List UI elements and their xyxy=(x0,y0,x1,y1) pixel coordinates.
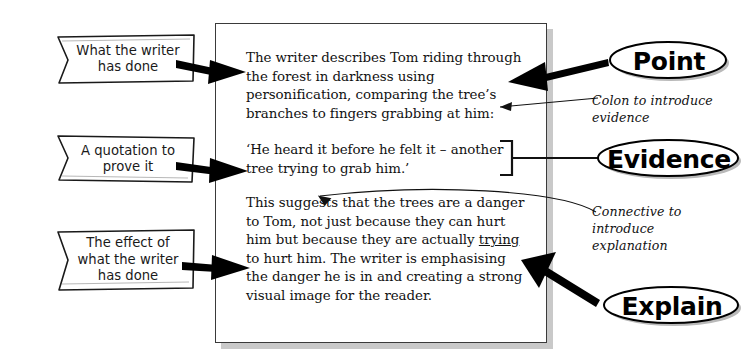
stage-label-explain: Explain xyxy=(602,285,742,327)
model-answer-box: The writer describes Tom riding through … xyxy=(215,23,547,343)
stage-label-text: Evidence xyxy=(607,145,731,174)
paragraph-explain: This suggests that the trees are a dange… xyxy=(246,194,528,305)
annotation-connective-note: Connective to introduce explanation xyxy=(592,203,732,254)
stage-label-text: Explain xyxy=(622,292,723,321)
callout-text: What the writer has done xyxy=(64,43,187,76)
callout-line-1: The effect of xyxy=(86,235,169,250)
callout-text: The effect of what the writer has done xyxy=(66,235,187,285)
callout-line-2: what the writer xyxy=(78,252,179,267)
callout-text: A quotation to prove it xyxy=(69,143,183,176)
paragraph-evidence: ‘He heard it before he felt it – another… xyxy=(246,141,528,178)
diagram-canvas: The writer describes Tom riding through … xyxy=(0,0,744,361)
annotation-line-3: explanation xyxy=(592,238,668,253)
paragraph-point: The writer describes Tom riding through … xyxy=(246,49,528,123)
callout-line-3: has done xyxy=(98,268,158,283)
callout-line-2: has done xyxy=(98,59,158,74)
annotation-line-1: Connective to xyxy=(592,204,682,219)
annotation-line-2: introduce xyxy=(592,221,654,236)
stage-label-evidence: Evidence xyxy=(596,138,742,180)
callout-the-effect-of-what-the-writer-has-done: The effect of what the writer has done xyxy=(56,228,196,292)
callout-line-1: What the writer xyxy=(76,43,179,58)
callout-line-2: prove it xyxy=(103,159,154,174)
paragraph-explain-underlined: trying xyxy=(479,232,520,247)
callout-line-1: A quotation to xyxy=(81,143,175,158)
callout-what-the-writer-has-done: What the writer has done xyxy=(56,33,196,85)
stage-label-text: Point xyxy=(633,47,705,76)
annotation-line-1: Colon to introduce xyxy=(592,93,713,108)
annotation-colon-note: Colon to introduce evidence xyxy=(592,92,742,126)
paragraph-explain-after: to hurt him. The writer is emphasising t… xyxy=(246,251,522,303)
annotation-line-2: evidence xyxy=(592,110,650,125)
callout-a-quotation-to-prove-it: A quotation to prove it xyxy=(56,133,196,185)
stage-label-point: Point xyxy=(608,40,730,82)
